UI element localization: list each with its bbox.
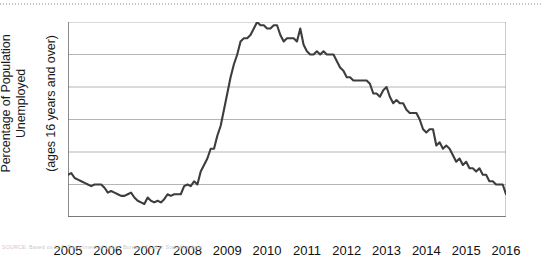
chart-canvas bbox=[68, 22, 506, 217]
y-axis-title-line-2: (ages 16 years and over) bbox=[44, 35, 58, 172]
source-note: SOURCE: Based on U.S. Department of Labo… bbox=[2, 244, 422, 250]
page-edge-artifact bbox=[0, 3, 543, 5]
x-tick-label: 2016 bbox=[482, 243, 530, 258]
plot-area: 45678910 2005200620072008200920102011201… bbox=[68, 22, 506, 217]
gridlines-group bbox=[68, 22, 506, 217]
unemployment-rate-line bbox=[68, 22, 506, 204]
y-axis-title-line-1: Percentage of Population Unemployed bbox=[0, 35, 28, 173]
y-axis-title: Percentage of Population Unemployed (age… bbox=[0, 4, 59, 204]
